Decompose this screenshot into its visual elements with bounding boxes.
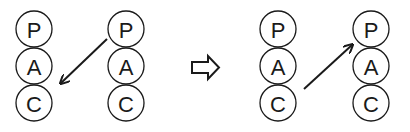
edge-arrow-down-left [61,39,107,83]
node-p: P [16,11,52,47]
svg-text:A: A [364,55,379,80]
svg-text:C: C [363,92,379,117]
svg-text:C: C [270,92,286,117]
svg-text:P: P [364,18,379,43]
svg-text:A: A [27,55,42,80]
hollow-right-arrow-icon [192,56,219,79]
svg-text:A: A [271,55,286,80]
svg-text:P: P [271,18,286,43]
stack-1: P A C [16,11,52,121]
svg-text:C: C [118,92,134,117]
stack-3: P A C [260,11,296,121]
node-a: A [108,48,144,84]
node-c: C [16,85,52,121]
svg-text:A: A [119,55,134,80]
stack-4: P A C [353,11,389,121]
node-p: P [353,11,389,47]
stack-2: P A C [108,11,144,121]
node-c: C [260,85,296,121]
svg-text:P: P [27,18,42,43]
node-p: P [260,11,296,47]
node-p: P [108,11,144,47]
node-a: A [353,48,389,84]
node-a: A [260,48,296,84]
node-a: A [16,48,52,84]
node-c: C [353,85,389,121]
svg-text:P: P [119,18,134,43]
edge-arrow-up-right [304,45,352,89]
diagram-canvas: P A C P A C P A C P A C [0,0,410,132]
node-c: C [108,85,144,121]
svg-text:C: C [26,92,42,117]
